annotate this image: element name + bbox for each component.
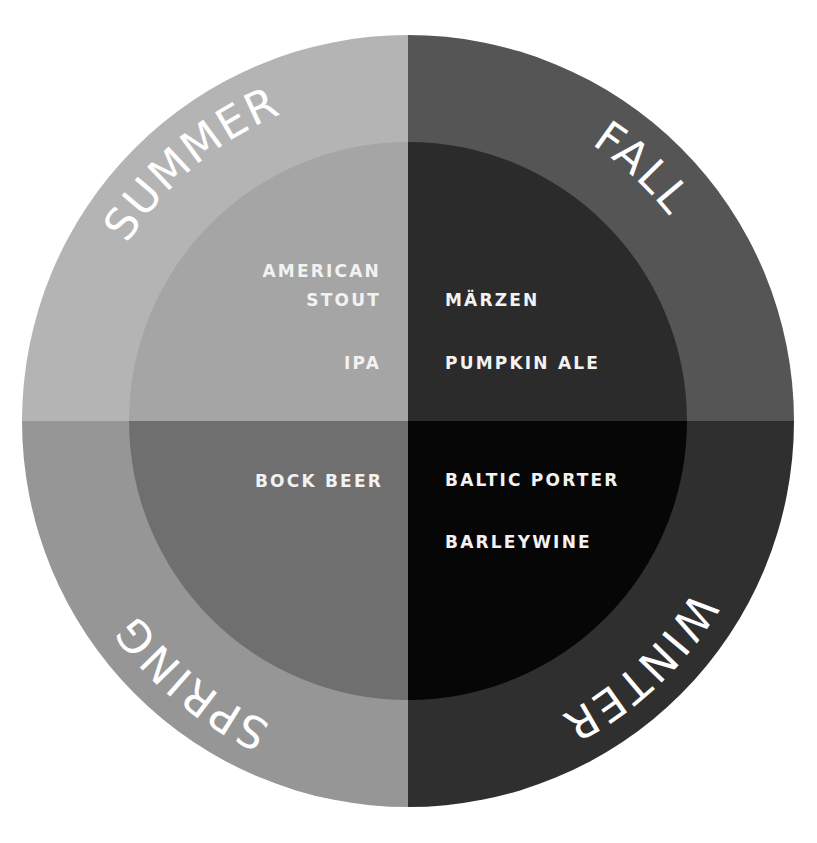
beer-pumpkin-ale: PUMPKIN ALE xyxy=(445,353,600,373)
beer-american-stout-line1: AMERICAN xyxy=(262,261,381,281)
beer-american-stout-line2: STOUT xyxy=(306,290,381,310)
beer-marzen: MÄRZEN xyxy=(445,289,540,310)
beer-baltic-porter: BALTIC PORTER xyxy=(445,470,620,490)
beer-ipa: IPA xyxy=(344,353,381,373)
beer-barleywine: BARLEYWINE xyxy=(445,532,592,552)
beer-bock-beer: BOCK BEER xyxy=(255,471,383,491)
seasonal-beer-wheel: SUMMER FALL WINTER SPRING AMERICAN STOUT… xyxy=(0,0,817,843)
